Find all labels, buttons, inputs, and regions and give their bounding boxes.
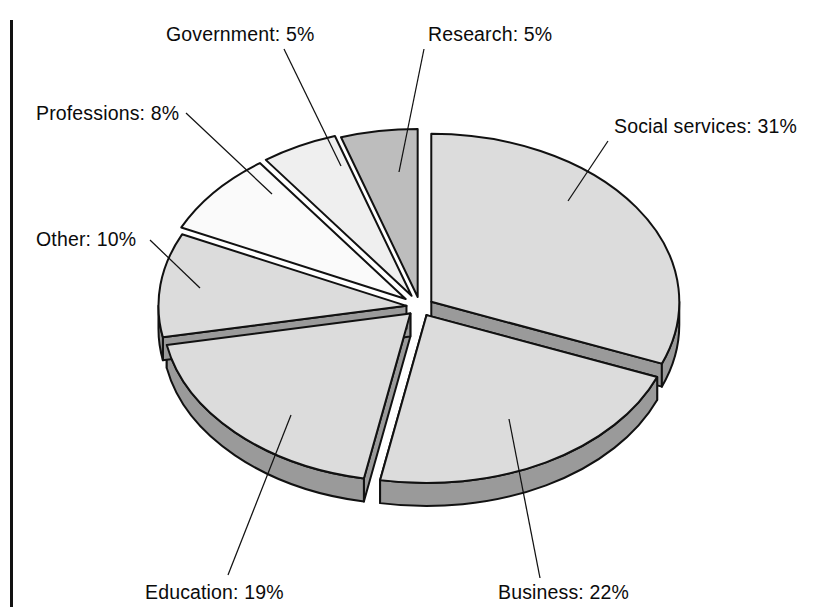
chart-page: Social services: 31%Business: 22%Educati… [0, 0, 833, 607]
pie-slices-top-faces [158, 129, 679, 483]
slice-label-business: Business: 22% [498, 581, 629, 603]
pie-chart-figure: Social services: 31%Business: 22%Educati… [0, 0, 833, 607]
slice-label-professions: Professions: 8% [36, 102, 179, 124]
slice-label-other: Other: 10% [36, 228, 136, 250]
slice-label-research: Research: 5% [428, 23, 552, 45]
slice-labels: Social services: 31%Business: 22%Educati… [36, 23, 797, 603]
slice-label-government: Government: 5% [166, 23, 314, 45]
slice-label-social-services: Social services: 31% [614, 115, 797, 137]
slice-label-education: Education: 19% [145, 581, 284, 603]
